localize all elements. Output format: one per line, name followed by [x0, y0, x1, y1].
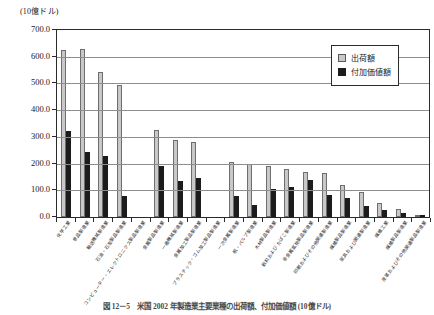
figure-caption: 図 12－5 米国 2002 年製造業主要業種の出荷額、付加価値額 (10億ドル… [0, 300, 434, 315]
bar [308, 180, 313, 217]
bar [327, 195, 332, 217]
bar [122, 196, 127, 217]
bar [345, 198, 350, 217]
bar [252, 205, 257, 217]
y-axis-tick-mark [52, 189, 56, 190]
bar [364, 206, 369, 217]
y-axis-tick-mark [52, 109, 56, 110]
y-axis-tick-label: 600.0 [4, 51, 50, 61]
x-axis-tick-label: 食品製造業 [73, 220, 91, 243]
gridline [57, 110, 429, 111]
x-axis-tick-mark [430, 218, 431, 222]
bar [178, 181, 183, 217]
bar-group [131, 30, 150, 217]
x-axis-labels: 化学工業食品製造業輸送機械製造業石油・石炭製品製造業コンピューター・エレクトロニ… [56, 220, 430, 292]
legend-swatch-value-added-icon [338, 68, 346, 76]
legend-label-shipment: 出荷額 [351, 52, 375, 63]
bar [85, 152, 90, 217]
chart-legend: 出荷額 付加価値額 [331, 45, 399, 86]
gridline [57, 164, 429, 165]
bar-group [150, 30, 169, 217]
y-axis-tick-label: 500.0 [4, 77, 50, 87]
bar [382, 210, 387, 217]
legend-item-shipment: 出荷額 [338, 52, 391, 63]
y-axis-tick-label: 100.0 [4, 184, 50, 194]
y-axis-tick-mark [52, 29, 56, 30]
bar-group [224, 30, 243, 217]
bar-group [206, 30, 225, 217]
bar-group [410, 30, 429, 217]
bar [66, 131, 71, 217]
bar-group [169, 30, 188, 217]
x-axis-tick-label: 化学工業 [57, 220, 72, 239]
bar [159, 166, 164, 217]
y-axis-tick-mark [52, 163, 56, 164]
bar [271, 189, 276, 217]
bar-group [57, 30, 76, 217]
bar [196, 178, 201, 217]
y-axis-tick-mark [52, 216, 56, 217]
bar-group [76, 30, 95, 217]
y-axis-tick-mark [52, 56, 56, 57]
y-axis-tick-mark [52, 136, 56, 137]
legend-label-value-added: 付加価値額 [351, 66, 391, 77]
bar [103, 156, 108, 217]
bar-group [187, 30, 206, 217]
legend-swatch-shipment-icon [338, 54, 346, 62]
bar-group [113, 30, 132, 217]
bar [289, 187, 294, 217]
y-axis-tick-label: 300.0 [4, 131, 50, 141]
y-axis-unit-label: (10億ドル) [20, 5, 59, 16]
x-axis-tick-label: 皮革およびその他関連製品製造業 [381, 220, 427, 283]
bar-group [280, 30, 299, 217]
y-axis-tick-label: 200.0 [4, 158, 50, 168]
bar-group [94, 30, 113, 217]
bar-group [262, 30, 281, 217]
y-axis-tick-label: 400.0 [4, 104, 50, 114]
gridline [57, 190, 429, 191]
x-axis-tick-label: 繊維工業 [375, 220, 390, 239]
bar-group [243, 30, 262, 217]
chart-screenshot: (10億ドル) 化学工業食品製造業輸送機械製造業石油・石炭製品製造業コンピュータ… [0, 0, 434, 315]
y-axis-tick-label: 0.0 [4, 211, 50, 221]
legend-item-value-added: 付加価値額 [338, 66, 391, 77]
y-axis-tick-label: 700.0 [4, 24, 50, 34]
bar [234, 196, 239, 217]
bar-group [299, 30, 318, 217]
bar [420, 215, 425, 217]
bar [401, 213, 406, 217]
y-axis-tick-mark [52, 82, 56, 83]
gridline [57, 137, 429, 138]
